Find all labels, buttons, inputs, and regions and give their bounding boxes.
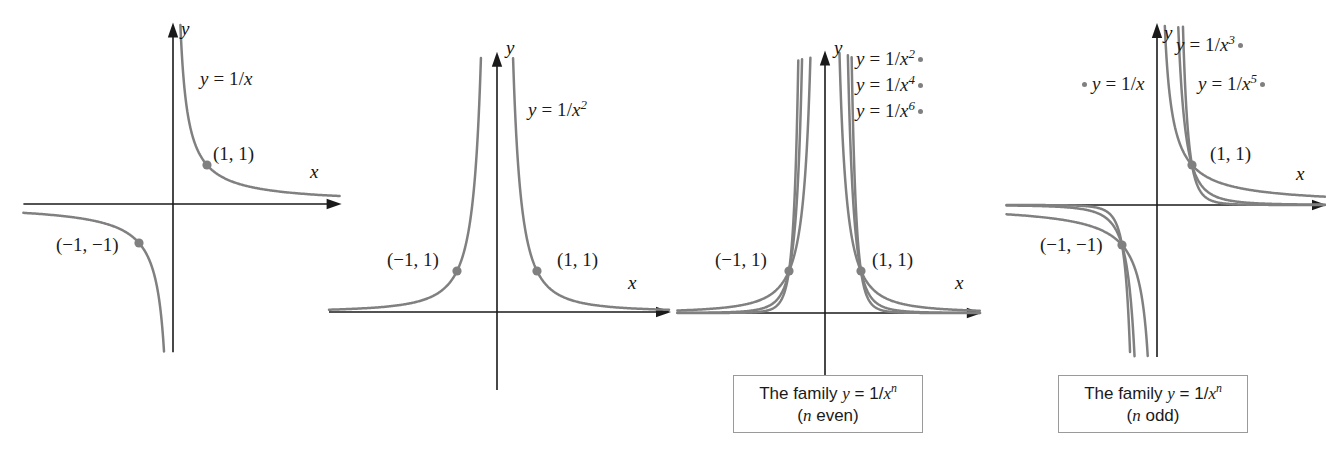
curve-label-panel-4-0: y = 1/x3 <box>1176 34 1243 56</box>
y-axis-arrowhead <box>820 51 830 66</box>
marked-point <box>134 238 143 247</box>
point-label-panel-2-1: (−1, 1) <box>387 249 439 271</box>
marked-point <box>856 266 865 275</box>
curve-y-1-x-5-left <box>1007 205 1131 352</box>
caption-line-1: The family y = 1/xn <box>748 383 908 405</box>
y-axis-arrowhead <box>168 23 178 38</box>
curve-label-panel-4-1: y = 1/x5 <box>1198 73 1265 95</box>
axis-letter-y: y <box>506 37 514 59</box>
caption-line-2: (n even) <box>748 405 908 427</box>
curve-label-panel-1-0: y = 1/x <box>200 68 253 90</box>
axis-letter-x: x <box>310 161 318 183</box>
axis-letter-x: x <box>628 272 636 294</box>
curve-label-panel-3-1: y = 1/x4 <box>856 74 923 96</box>
marked-point <box>784 266 793 275</box>
point-label-panel-3-0: (1, 1) <box>872 249 913 271</box>
marked-point <box>1117 240 1126 249</box>
panel-3 <box>677 51 981 393</box>
marked-point <box>1187 160 1196 169</box>
curve-label-panel-3-2: y = 1/x6 <box>856 100 923 122</box>
legend-dot-marker <box>1238 43 1243 48</box>
caption-line-1: The family y = 1/xn <box>1073 383 1233 405</box>
curve-label-panel-2-0: y = 1/x2 <box>528 99 587 121</box>
marked-point <box>202 160 211 169</box>
y-axis-arrowhead <box>1152 23 1162 38</box>
axis-letter-x: x <box>1296 163 1304 185</box>
legend-dot-marker <box>918 109 923 114</box>
legend-dot-marker <box>918 83 923 88</box>
legend-dot-marker <box>1260 82 1265 87</box>
point-label-panel-1-0: (1, 1) <box>213 143 254 165</box>
curve-y-1-x-6-left <box>677 61 798 313</box>
axis-letter-y: y <box>1164 22 1172 44</box>
panel-2 <box>329 52 671 390</box>
panel-1 <box>23 23 341 353</box>
curve-y-1-x-3-left <box>1007 206 1135 357</box>
y-axis-arrowhead <box>492 52 502 67</box>
panel-4 <box>1007 23 1326 357</box>
point-label-panel-2-0: (1, 1) <box>557 249 598 271</box>
point-label-panel-1-1: (−1, −1) <box>56 234 119 256</box>
legend-dot-marker <box>918 57 923 62</box>
legend-dot-marker <box>1082 82 1087 87</box>
figure-root: yxyxyxyxy = 1/x(1, 1)(−1, −1)y = 1/x2(1,… <box>0 0 1326 458</box>
marked-point <box>452 266 461 275</box>
axis-letter-y: y <box>181 18 189 40</box>
caption-box-panel-3: The family y = 1/xn(n even) <box>733 375 923 433</box>
point-label-panel-4-1: (−1, −1) <box>1040 234 1103 256</box>
axis-letter-x: x <box>955 272 963 294</box>
caption-box-panel-4: The family y = 1/xn(n odd) <box>1058 375 1248 433</box>
x-axis-arrowhead <box>327 199 342 209</box>
axis-letter-y: y <box>834 37 842 59</box>
point-label-panel-4-0: (1, 1) <box>1210 143 1251 165</box>
curve-y-1-x-4-left <box>677 59 802 313</box>
curve-label-panel-4-2: y = 1/x <box>1082 73 1145 95</box>
point-label-panel-3-1: (−1, 1) <box>715 249 767 271</box>
marked-point <box>532 266 541 275</box>
caption-line-2: (n odd) <box>1073 405 1233 427</box>
curve-label-panel-3-0: y = 1/x2 <box>856 48 923 70</box>
